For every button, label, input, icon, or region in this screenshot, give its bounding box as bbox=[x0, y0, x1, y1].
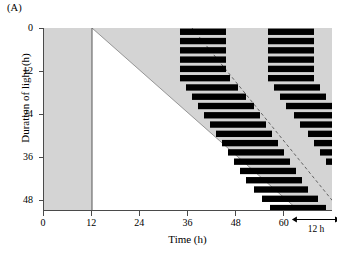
x-axis-title: Time (h) bbox=[43, 233, 332, 245]
activity-bar bbox=[210, 121, 266, 127]
activity-bar bbox=[268, 29, 314, 35]
activity-bar bbox=[270, 205, 326, 210]
x-tick-label: 12 bbox=[76, 218, 106, 228]
activity-bar bbox=[246, 177, 302, 183]
activity-bar bbox=[268, 56, 314, 62]
actogram-plot bbox=[44, 28, 332, 210]
activity-bar bbox=[326, 158, 332, 164]
y-tick-mark bbox=[39, 71, 44, 72]
y-tick-mark bbox=[39, 157, 44, 158]
x-tick-mark bbox=[235, 211, 236, 216]
activity-bar bbox=[268, 38, 314, 44]
x-tick-label: 36 bbox=[173, 218, 203, 228]
panel-label: (A) bbox=[7, 2, 22, 14]
activity-bar bbox=[268, 75, 314, 81]
activity-bar bbox=[234, 158, 290, 164]
y-tick-mark bbox=[39, 114, 44, 115]
activity-bar bbox=[228, 149, 284, 155]
actogram-figure: (A) 012243648 01224364860 Duration of li… bbox=[0, 0, 337, 255]
activity-bar bbox=[268, 66, 314, 72]
twelve-hour-label: 12 h bbox=[282, 224, 337, 234]
y-tick-mark bbox=[39, 28, 44, 29]
activity-bar bbox=[314, 140, 332, 146]
x-tick-mark bbox=[187, 211, 188, 216]
activity-bar bbox=[204, 112, 260, 118]
activity-bar bbox=[180, 29, 226, 35]
x-tick-mark bbox=[139, 211, 140, 216]
activity-bar bbox=[274, 84, 320, 90]
y-tick-mark bbox=[39, 200, 44, 201]
activity-bar bbox=[240, 168, 296, 174]
activity-bar bbox=[300, 121, 332, 127]
activity-bar bbox=[180, 38, 226, 44]
activity-bar bbox=[268, 47, 314, 53]
activity-bar bbox=[222, 140, 278, 146]
activity-bar bbox=[216, 131, 272, 137]
activity-bar bbox=[280, 94, 326, 100]
x-tick-label: 0 bbox=[28, 218, 58, 228]
activity-bar bbox=[254, 186, 308, 192]
y-tick-label: 48 bbox=[7, 195, 33, 205]
activity-bar bbox=[180, 56, 226, 62]
activity-bar bbox=[294, 112, 332, 118]
activity-bar bbox=[286, 103, 332, 109]
activity-bar bbox=[198, 103, 254, 109]
plot-area bbox=[43, 28, 332, 211]
x-tick-mark bbox=[43, 211, 44, 216]
activity-bar bbox=[262, 196, 318, 202]
activity-bar bbox=[180, 47, 226, 53]
activity-bar bbox=[186, 84, 238, 90]
activity-bar bbox=[320, 149, 332, 155]
x-tick-mark bbox=[91, 211, 92, 216]
activity-bar bbox=[180, 75, 230, 81]
y-axis-title: Duration of light (h) bbox=[19, 23, 31, 173]
activity-bar bbox=[180, 66, 226, 72]
activity-bar bbox=[308, 131, 332, 137]
x-tick-label: 48 bbox=[221, 218, 251, 228]
activity-bar bbox=[192, 94, 246, 100]
x-tick-mark bbox=[283, 211, 284, 216]
x-tick-label: 24 bbox=[124, 218, 154, 228]
